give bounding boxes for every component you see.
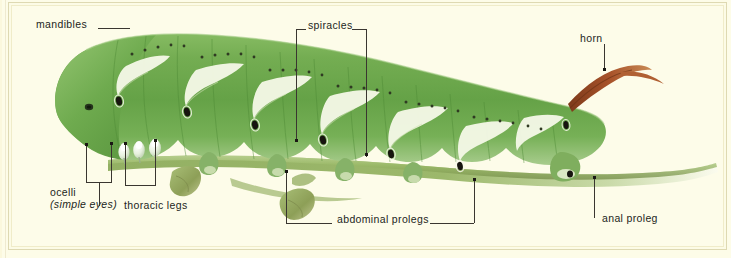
- label-spiracles: spiracles: [308, 19, 353, 31]
- label-horn: horn: [580, 32, 602, 44]
- label-ocelli: ocelli: [50, 186, 76, 198]
- leader-dot-abdominal-right: [473, 178, 476, 181]
- leader-ocelli-right-down: [111, 145, 112, 182]
- leader-mandibles: [98, 28, 130, 29]
- leader-ocelli-left-down: [86, 146, 87, 182]
- label-abdominal-prolegs: abdominal prolegs: [337, 213, 429, 225]
- horn: [568, 65, 664, 112]
- leader-ocelli-stem: [99, 182, 100, 206]
- leader-dot-spiracle-right: [365, 153, 368, 156]
- label-mandibles: mandibles: [36, 18, 87, 30]
- leader-dot-anal-proleg: [593, 176, 596, 179]
- leader-spiracles-right-down: [366, 29, 367, 157]
- leader-dot-abdominal-left: [285, 170, 288, 173]
- leader-abdominal-left-v: [286, 172, 287, 223]
- leader-spiracles-left-top: [296, 29, 306, 30]
- label-anal-proleg: anal proleg: [602, 212, 658, 224]
- leader-abdominal-right-v: [474, 180, 475, 223]
- leader-horn: [604, 44, 605, 70]
- leader-abdominal-right-h: [430, 223, 474, 224]
- caterpillar-illustration: mandibles spiracles horn ocelli (simple …: [0, 0, 735, 264]
- label-ocelli-sub: (simple eyes): [50, 198, 117, 210]
- leader-anal-proleg: [594, 178, 595, 218]
- leader-dot-spiracle-left: [295, 139, 298, 142]
- leader-thoracic-bracket: [125, 185, 156, 186]
- figure-page: mandibles spiracles horn ocelli (simple …: [0, 0, 735, 264]
- leader-dot-horn: [603, 68, 606, 71]
- leader-thoracic-right-down: [155, 142, 156, 185]
- label-thoracic-legs: thoracic legs: [124, 199, 188, 211]
- leader-thoracic-left-down: [125, 145, 126, 185]
- leader-spiracles-right-top: [352, 29, 366, 30]
- leader-spiracles-left-down: [296, 29, 297, 142]
- stem-leaves: [170, 166, 316, 220]
- leader-abdominal-left-h: [286, 223, 332, 224]
